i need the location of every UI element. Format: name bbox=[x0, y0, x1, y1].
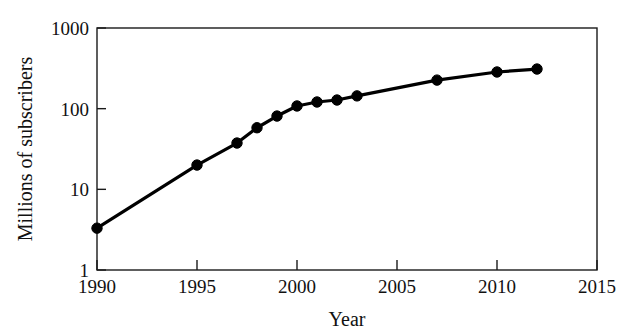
chart-figure: 1101001000 199019952000200520102015 Year… bbox=[0, 0, 620, 335]
data-point bbox=[332, 95, 342, 105]
data-point bbox=[292, 101, 302, 111]
x-tick-label: 2005 bbox=[378, 276, 416, 297]
y-axis-title: Millions of subscribers bbox=[14, 57, 36, 242]
y-tick-label: 1000 bbox=[51, 18, 89, 39]
x-tick-label: 2000 bbox=[278, 276, 316, 297]
chart-canvas: 1101001000 199019952000200520102015 Year… bbox=[0, 0, 620, 335]
y-axis-tick-labels: 1101001000 bbox=[51, 18, 89, 281]
data-point bbox=[432, 75, 442, 85]
data-point bbox=[232, 138, 242, 148]
x-axis-tick-labels: 199019952000200520102015 bbox=[78, 276, 616, 297]
y-tick-label: 100 bbox=[61, 99, 90, 120]
data-point bbox=[352, 91, 362, 101]
x-tick-label: 2015 bbox=[578, 276, 616, 297]
y-tick-label: 10 bbox=[70, 179, 89, 200]
data-point bbox=[192, 160, 202, 170]
data-point bbox=[312, 97, 322, 107]
data-point bbox=[532, 64, 542, 74]
data-point bbox=[492, 67, 502, 77]
data-point bbox=[272, 111, 282, 121]
x-axis-title: Year bbox=[329, 308, 366, 330]
plot-frame bbox=[97, 28, 597, 270]
x-tick-label: 1990 bbox=[78, 276, 116, 297]
data-point bbox=[252, 123, 262, 133]
x-tick-label: 1995 bbox=[178, 276, 216, 297]
data-point bbox=[92, 223, 102, 233]
x-tick-label: 2010 bbox=[478, 276, 516, 297]
